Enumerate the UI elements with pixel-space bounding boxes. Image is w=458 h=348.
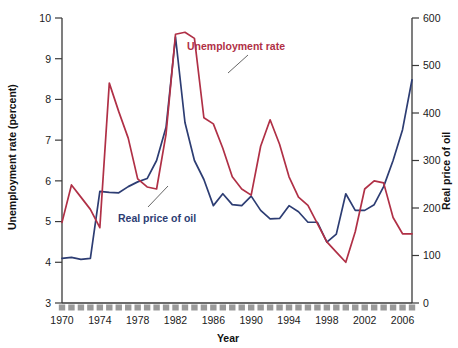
x-tick-label: 2002 (353, 314, 377, 326)
x-tick-label: 1986 (202, 314, 226, 326)
x-minor-tick (314, 305, 320, 311)
right-tick-label: 100 (423, 249, 441, 261)
x-minor-tick (390, 305, 396, 311)
x-axis-title: Year (217, 332, 239, 344)
x-minor-tick (324, 305, 330, 311)
x-minor-tick (399, 305, 405, 311)
x-minor-tick (409, 305, 415, 311)
series-line-real-price-of-oil (62, 37, 412, 259)
right-tick-label: 600 (423, 12, 441, 24)
x-minor-tick (295, 305, 301, 311)
x-tick-label: 1982 (164, 314, 188, 326)
series-line-unemployment-rate (62, 32, 412, 262)
x-axis-ticks (59, 305, 415, 311)
x-minor-tick (305, 305, 311, 311)
x-tick-label: 1990 (240, 314, 264, 326)
x-minor-tick (182, 305, 188, 311)
x-minor-tick (172, 305, 178, 311)
right-tick-label: 0 (423, 297, 429, 309)
left-tick-label: 9 (45, 53, 51, 65)
real-price-of-oil-annotation: Real price of oil (118, 212, 196, 224)
unemployment-leader-line (228, 55, 248, 73)
x-minor-tick (362, 305, 368, 311)
y2-axis-title: Real price of oil (440, 132, 452, 210)
x-minor-tick (248, 305, 254, 311)
chart-container: 345678910 0100200300400500600 1970197419… (0, 0, 458, 348)
x-minor-tick (106, 305, 112, 311)
unemployment-rate-annotation: Unemployment rate (187, 40, 285, 52)
x-minor-tick (134, 305, 140, 311)
x-minor-tick (78, 305, 84, 311)
x-minor-tick (371, 305, 377, 311)
x-minor-tick (68, 305, 74, 311)
chart-axes (62, 18, 412, 303)
right-tick-label: 500 (423, 59, 441, 71)
x-minor-tick (239, 305, 245, 311)
x-minor-tick (163, 305, 169, 311)
dual-axis-line-chart: 345678910 0100200300400500600 1970197419… (0, 0, 458, 348)
x-tick-label: 1994 (277, 314, 301, 326)
x-tick-label: 1978 (126, 314, 150, 326)
x-minor-tick (210, 305, 216, 311)
left-tick-label: 7 (45, 134, 51, 146)
right-tick-label: 400 (423, 107, 441, 119)
x-tick-label: 2006 (391, 314, 415, 326)
x-minor-tick (333, 305, 339, 311)
left-tick-label: 6 (45, 175, 51, 187)
x-tick-label: 1998 (315, 314, 339, 326)
x-minor-tick (343, 305, 349, 311)
x-minor-tick (201, 305, 207, 311)
left-tick-label: 3 (45, 297, 51, 309)
x-minor-tick (286, 305, 292, 311)
x-minor-tick (267, 305, 273, 311)
x-minor-tick (352, 305, 358, 311)
x-axis-tick-labels: 1970197419781982198619901994199820022006 (50, 314, 414, 326)
left-axis-ticks: 345678910 (39, 12, 62, 309)
x-minor-tick (97, 305, 103, 311)
left-tick-label: 10 (39, 12, 51, 24)
left-tick-label: 8 (45, 93, 51, 105)
x-tick-label: 1970 (50, 314, 74, 326)
y-axis-title: Unemployment rate (percent) (6, 84, 18, 230)
x-minor-tick (59, 305, 65, 311)
x-minor-tick (87, 305, 93, 311)
right-tick-label: 300 (423, 154, 441, 166)
x-minor-tick (125, 305, 131, 311)
x-tick-label: 1974 (88, 314, 112, 326)
x-minor-tick (116, 305, 122, 311)
x-minor-tick (191, 305, 197, 311)
oil-leader-line (148, 186, 168, 207)
x-minor-tick (220, 305, 226, 311)
x-minor-tick (229, 305, 235, 311)
right-axis-ticks: 0100200300400500600 (412, 12, 441, 309)
x-minor-tick (276, 305, 282, 311)
x-minor-tick (144, 305, 150, 311)
x-minor-tick (380, 305, 386, 311)
left-tick-label: 5 (45, 215, 51, 227)
x-minor-tick (153, 305, 159, 311)
left-tick-label: 4 (45, 256, 51, 268)
x-minor-tick (257, 305, 263, 311)
right-tick-label: 200 (423, 202, 441, 214)
